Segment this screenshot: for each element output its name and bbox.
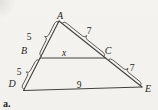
brace-bd <box>22 60 39 90</box>
measure-de: 9 <box>77 80 82 90</box>
vertex-label-a: A <box>56 10 64 21</box>
vertex-label-d: D <box>7 78 16 89</box>
vertex-label-e: E <box>144 83 151 94</box>
measure-bd: 5 <box>17 67 22 77</box>
side-ae-line <box>59 21 142 87</box>
figure-canvas: A B C D E 5 5 7 7 x 9 a. <box>0 0 158 110</box>
brace-ab <box>40 21 59 56</box>
measure-ab: 5 <box>27 32 32 42</box>
figure-caption: a. <box>3 98 11 109</box>
brace-ac <box>62 22 104 57</box>
triangle-diagram: A B C D E 5 5 7 7 x 9 a. <box>0 0 158 110</box>
side-de-line <box>24 87 143 91</box>
vertex-label-b: B <box>21 45 27 56</box>
measure-ac: 7 <box>87 26 92 36</box>
brace-ce <box>109 59 142 86</box>
measure-ce: 7 <box>130 63 135 73</box>
vertex-label-c: C <box>105 45 112 56</box>
measure-bc: x <box>61 48 67 58</box>
